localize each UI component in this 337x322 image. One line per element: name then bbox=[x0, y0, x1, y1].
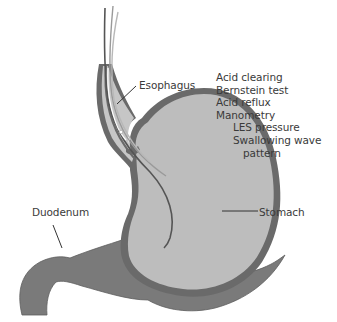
test-item: Manometry bbox=[216, 109, 321, 122]
test-item: Acid reflux bbox=[216, 96, 321, 109]
duodenum-leader-line bbox=[53, 225, 62, 248]
esophagus-label: Esophagus bbox=[139, 79, 195, 91]
test-item: Acid clearing bbox=[216, 71, 321, 84]
ph-sensor-tip bbox=[119, 130, 123, 134]
test-subitem: LES pressure bbox=[216, 121, 321, 134]
test-subitem-continuation: pattern bbox=[216, 147, 321, 160]
test-subitem: Swallowing wave bbox=[216, 134, 321, 147]
esophageal-tests-list: Acid clearing Bernstein test Acid reflux… bbox=[216, 71, 321, 159]
duodenum-label: Duodenum bbox=[32, 206, 89, 218]
stomach-diagram bbox=[0, 0, 337, 322]
test-item: Bernstein test bbox=[216, 84, 321, 97]
stomach-label: Stomach bbox=[259, 206, 305, 218]
